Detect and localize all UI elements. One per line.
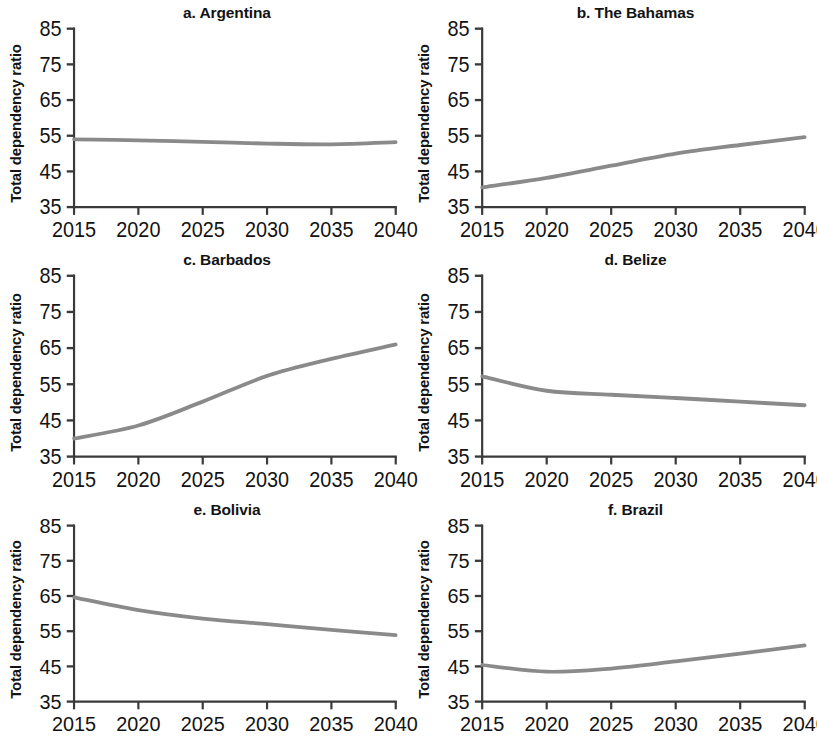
y-tick-label: 35: [447, 444, 469, 468]
x-tick-label: 2015: [52, 467, 96, 491]
y-axis-label-text: Total dependency ratio: [415, 540, 432, 699]
x-tick-label: 2035: [718, 467, 762, 491]
x-tick-label: 2040: [783, 218, 817, 242]
x-tick-label: 2030: [245, 713, 289, 736]
plot-svg: 354555657585201520202025203020352040: [434, 22, 811, 245]
y-axis-label: Total dependency ratio: [410, 0, 436, 247]
y-tick-label: 85: [39, 514, 61, 537]
y-tick-label: 35: [447, 195, 469, 219]
plot-area: 354555657585201520202025203020352040: [434, 269, 811, 495]
axis-spines: [74, 29, 396, 207]
x-tick-label: 2025: [181, 467, 225, 491]
x-tick-label: 2015: [460, 467, 504, 491]
x-tick-label: 2035: [309, 467, 353, 491]
y-tick-label: 85: [39, 263, 61, 287]
chart-panel-a-argentina: a. ArgentinaTotal dependency ratio354555…: [0, 0, 408, 247]
y-tick-label: 75: [39, 52, 61, 76]
data-series-line: [74, 597, 396, 635]
x-tick-label: 2030: [654, 713, 698, 736]
y-tick-label: 75: [447, 550, 469, 573]
y-axis-label: Total dependency ratio: [2, 0, 28, 247]
y-tick-label: 45: [39, 408, 61, 432]
y-tick-label: 85: [447, 514, 469, 537]
y-tick-label: 75: [447, 300, 469, 324]
x-tick-label: 2020: [116, 218, 160, 242]
y-tick-label: 35: [39, 195, 61, 219]
y-tick-label: 75: [39, 549, 61, 572]
plot-area: 354555657585201520202025203020352040: [434, 519, 811, 739]
x-tick-label: 2035: [718, 218, 762, 242]
y-tick-label: 65: [447, 585, 469, 608]
y-tick-label: 55: [447, 372, 469, 396]
y-axis-label-text: Total dependency ratio: [7, 293, 24, 452]
data-series-line: [482, 645, 805, 672]
y-tick-label: 35: [447, 690, 469, 713]
x-tick-label: 2020: [525, 467, 569, 491]
x-tick-label: 2030: [245, 467, 289, 491]
x-tick-label: 2025: [589, 713, 633, 736]
x-tick-label: 2015: [52, 218, 96, 242]
y-axis-label: Total dependency ratio: [410, 247, 436, 497]
y-tick-label: 45: [447, 408, 469, 432]
y-tick-label: 85: [447, 263, 469, 287]
data-series-line: [74, 344, 396, 438]
y-axis-label-text: Total dependency ratio: [415, 293, 432, 452]
x-tick-label: 2020: [525, 713, 569, 736]
chart-panel-b-the-bahamas: b. The BahamasTotal dependency ratio3545…: [408, 0, 817, 247]
data-series-line: [482, 137, 805, 187]
plot-svg: 354555657585201520202025203020352040: [434, 519, 811, 739]
x-tick-label: 2035: [718, 713, 762, 736]
y-tick-label: 45: [447, 159, 469, 183]
axis-spines: [74, 526, 396, 702]
x-tick-label: 2020: [116, 713, 160, 736]
y-tick-label: 85: [39, 16, 61, 40]
x-tick-label: 2025: [181, 218, 225, 242]
plot-area: 354555657585201520202025203020352040: [26, 22, 402, 245]
y-tick-label: 75: [447, 52, 469, 76]
x-tick-label: 2015: [460, 713, 504, 736]
y-tick-label: 45: [447, 655, 469, 678]
x-tick-label: 2030: [245, 218, 289, 242]
y-tick-label: 55: [39, 123, 61, 147]
x-tick-label: 2020: [116, 467, 160, 491]
plot-area: 354555657585201520202025203020352040: [26, 519, 402, 739]
y-axis-label: Total dependency ratio: [2, 497, 28, 741]
axis-spines: [482, 276, 805, 457]
y-tick-label: 55: [447, 123, 469, 147]
y-tick-label: 55: [39, 372, 61, 396]
x-tick-label: 2015: [460, 218, 504, 242]
y-axis-label-text: Total dependency ratio: [7, 44, 24, 203]
y-tick-label: 45: [39, 159, 61, 183]
plot-area: 354555657585201520202025203020352040: [434, 22, 811, 245]
plot-svg: 354555657585201520202025203020352040: [26, 22, 402, 245]
plot-svg: 354555657585201520202025203020352040: [434, 269, 811, 495]
axis-spines: [482, 526, 805, 702]
plot-area: 354555657585201520202025203020352040: [26, 269, 402, 495]
x-tick-label: 2040: [783, 713, 817, 736]
chart-panel-f-brazil: f. BrazilTotal dependency ratio354555657…: [408, 497, 817, 741]
dependency-ratio-figure: a. ArgentinaTotal dependency ratio354555…: [0, 0, 817, 741]
y-tick-label: 75: [39, 300, 61, 324]
y-axis-label-text: Total dependency ratio: [415, 44, 432, 203]
y-tick-label: 65: [39, 336, 61, 360]
data-series-line: [482, 376, 805, 405]
chart-panel-e-bolivia: e. BoliviaTotal dependency ratio35455565…: [0, 497, 408, 741]
chart-panel-c-barbados: c. BarbadosTotal dependency ratio3545556…: [0, 247, 408, 497]
y-tick-label: 65: [39, 88, 61, 112]
y-tick-label: 35: [39, 444, 61, 468]
chart-panel-d-belize: d. BelizeTotal dependency ratio354555657…: [408, 247, 817, 497]
y-tick-label: 65: [39, 585, 61, 608]
x-tick-label: 2025: [181, 713, 225, 736]
y-tick-label: 65: [447, 336, 469, 360]
y-tick-label: 55: [447, 620, 469, 643]
y-tick-label: 55: [39, 620, 61, 643]
plot-svg: 354555657585201520202025203020352040: [26, 519, 402, 739]
x-tick-label: 2030: [654, 218, 698, 242]
y-tick-label: 65: [447, 88, 469, 112]
data-series-line: [74, 139, 396, 144]
y-tick-label: 85: [447, 16, 469, 40]
x-tick-label: 2030: [654, 467, 698, 491]
x-tick-label: 2035: [309, 713, 353, 736]
x-tick-label: 2015: [52, 713, 96, 736]
plot-svg: 354555657585201520202025203020352040: [26, 269, 402, 495]
